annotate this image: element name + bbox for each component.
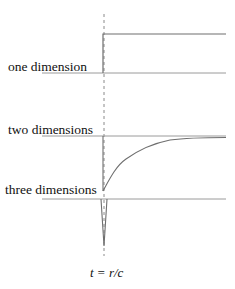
label-time-marker: t = r/c: [90, 266, 123, 279]
label-two-dimensions: two dimensions: [8, 123, 93, 137]
one-d-step-curve: [103, 34, 226, 73]
label-one-dimension: one dimension: [8, 60, 87, 74]
two-d-tail-curve: [103, 138, 226, 192]
label-three-dimensions: three dimensions: [5, 183, 97, 197]
wave-response-diagram: [0, 0, 235, 289]
